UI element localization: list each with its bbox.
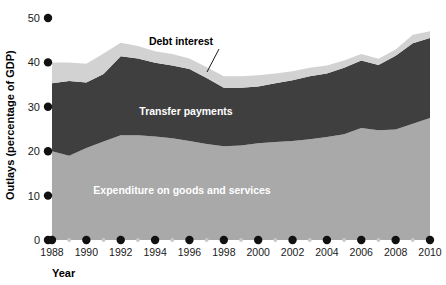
y-axis-tick-markers — [44, 14, 52, 244]
x-tick-label: 1994 — [143, 246, 167, 258]
series-label-transfer-payments: Transfer payments — [139, 105, 233, 117]
plot-areas — [52, 31, 430, 240]
x-minor-tick-marker — [67, 238, 71, 242]
y-tick-label: 30 — [28, 101, 40, 113]
y-axis-tick-labels: 01020304050 — [28, 12, 40, 246]
y-tick-marker — [44, 14, 52, 22]
x-tick-marker — [48, 236, 56, 244]
area-chart: 01020304050 1988199019921994199619982000… — [0, 0, 446, 285]
y-tick-marker — [44, 103, 52, 111]
x-tick-label: 1990 — [75, 246, 99, 258]
y-tick-marker — [44, 191, 52, 199]
x-tick-marker — [391, 236, 399, 244]
x-minor-tick-marker — [136, 238, 140, 242]
x-minor-tick-marker — [102, 238, 106, 242]
x-tick-marker — [357, 236, 365, 244]
x-tick-label: 2010 — [418, 246, 442, 258]
x-tick-marker — [151, 236, 159, 244]
y-axis-title: Outlays (percentage of GDP) — [4, 50, 16, 200]
x-minor-tick-marker — [342, 238, 346, 242]
x-tick-label: 2004 — [315, 246, 339, 258]
x-minor-tick-marker — [239, 238, 243, 242]
x-tick-label: 2002 — [281, 246, 305, 258]
x-tick-label: 2006 — [350, 246, 374, 258]
y-tick-label: 10 — [28, 190, 40, 202]
x-tick-label: 1988 — [40, 246, 64, 258]
x-tick-label: 1998 — [212, 246, 236, 258]
x-tick-marker — [254, 236, 262, 244]
series-label-expenditure-goods-services: Expenditure on goods and services — [93, 184, 271, 196]
x-tick-marker — [185, 236, 193, 244]
y-tick-label: 20 — [28, 145, 40, 157]
x-axis-tick-labels: 1988199019921994199619982000200220042006… — [40, 246, 442, 258]
y-tick-label: 0 — [34, 234, 40, 246]
x-tick-label: 1992 — [109, 246, 133, 258]
x-minor-tick-marker — [205, 238, 209, 242]
y-tick-label: 50 — [28, 12, 40, 24]
x-minor-tick-marker — [308, 238, 312, 242]
x-tick-marker — [82, 236, 90, 244]
x-minor-tick-marker — [411, 238, 415, 242]
x-tick-label: 2008 — [384, 246, 408, 258]
x-tick-marker — [426, 236, 434, 244]
x-axis-title: Year — [52, 267, 76, 279]
chart-figure: 01020304050 1988199019921994199619982000… — [0, 0, 446, 285]
x-tick-marker — [288, 236, 296, 244]
y-tick-marker — [44, 147, 52, 155]
series-label-debt-interest: Debt interest — [149, 35, 214, 47]
x-tick-label: 2000 — [247, 246, 271, 258]
x-minor-tick-marker — [377, 238, 381, 242]
x-minor-tick-marker — [170, 238, 174, 242]
annotation-leader-line-debt-interest — [207, 49, 219, 72]
x-tick-label: 1996 — [178, 246, 202, 258]
x-minor-tick-marker — [273, 238, 277, 242]
x-tick-marker — [220, 236, 228, 244]
x-tick-marker — [323, 236, 331, 244]
x-tick-marker — [117, 236, 125, 244]
y-tick-marker — [44, 58, 52, 66]
y-tick-label: 40 — [28, 56, 40, 68]
